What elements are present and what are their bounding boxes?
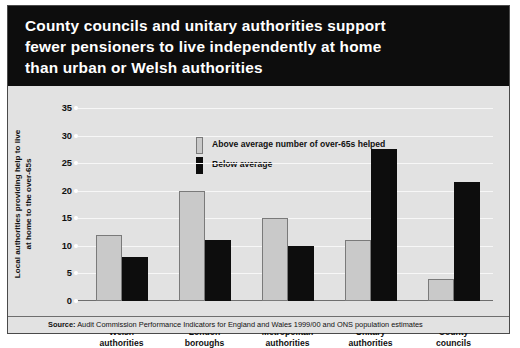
bar-below-average bbox=[371, 149, 397, 301]
bar-group bbox=[179, 108, 231, 301]
y-axis-tick-label: 30 bbox=[32, 131, 72, 141]
chart-body: Local authorities providing help to live… bbox=[8, 86, 509, 333]
source-body: Audit Commission Performance Indicators … bbox=[76, 320, 423, 329]
plot-area: Above average number of over-65s helped … bbox=[78, 108, 493, 301]
bar-group bbox=[262, 108, 314, 301]
bar-below-average bbox=[454, 182, 480, 301]
title-banner: County councils and unitary authorities … bbox=[8, 6, 509, 86]
figure-frame: County councils and unitary authorities … bbox=[7, 5, 510, 334]
bar-above-average bbox=[262, 218, 288, 301]
bar-group bbox=[428, 108, 480, 301]
chart-title: County councils and unitary authorities … bbox=[25, 15, 495, 78]
y-axis-tick-marker bbox=[74, 216, 78, 220]
y-axis-tick-label: 20 bbox=[32, 186, 72, 196]
y-axis-tick-marker bbox=[74, 106, 78, 110]
source-prefix: Source: bbox=[48, 320, 76, 329]
bar-group bbox=[96, 108, 148, 301]
y-axis-tick-label: 15 bbox=[32, 213, 72, 223]
bar-below-average bbox=[205, 240, 231, 301]
bar-above-average bbox=[428, 279, 454, 301]
bar-below-average bbox=[288, 246, 314, 301]
y-axis-tick-label: 25 bbox=[32, 158, 72, 168]
y-axis-tick-marker bbox=[74, 134, 78, 138]
y-axis-label: Local authorities providing help to live… bbox=[12, 96, 34, 312]
bar-above-average bbox=[96, 235, 122, 301]
source-note: Source: Audit Commission Performance Ind… bbox=[48, 320, 423, 329]
y-axis-tick-marker bbox=[74, 161, 78, 165]
y-axis-tick-label: 35 bbox=[32, 103, 72, 113]
y-axis-tick-label: 5 bbox=[32, 268, 72, 278]
y-axis-tick-label: 0 bbox=[32, 296, 72, 306]
y-axis-tick-label: 10 bbox=[32, 241, 72, 251]
bar-below-average bbox=[122, 257, 148, 301]
bar-above-average bbox=[345, 240, 371, 301]
bar-above-average bbox=[179, 191, 205, 301]
y-axis-tick-marker bbox=[74, 244, 78, 248]
y-axis-tick-marker bbox=[74, 271, 78, 275]
y-axis-tick-marker bbox=[74, 299, 78, 303]
y-axis-tick-marker bbox=[74, 189, 78, 193]
source-band: Source: Audit Commission Performance Ind… bbox=[8, 316, 509, 333]
bar-group bbox=[345, 108, 397, 301]
